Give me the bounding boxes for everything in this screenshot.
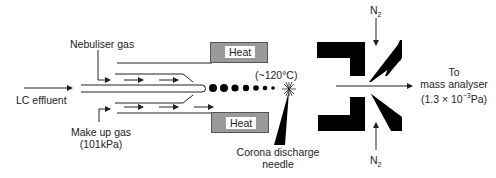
n2-bottom-label: N2 (370, 154, 382, 171)
n2-bottom-sub: 2 (378, 161, 382, 168)
pressure-prefix: (1.3 × 10 (421, 93, 463, 105)
heater-bottom: Heat (211, 112, 269, 133)
temperature-label: (~120°C) (255, 69, 297, 81)
nebuliser-gas-label: Nebuliser gas (70, 38, 134, 50)
heater-top-label: Heat (225, 46, 255, 58)
corona-needle (274, 91, 289, 145)
corona-line1: Corona discharge (232, 146, 324, 158)
pressure-suffix: Pa) (471, 93, 487, 105)
outer-tube (117, 63, 212, 113)
mass-analyser-text: mass analyser (414, 78, 494, 90)
heater-bottom-label: Heat (226, 117, 256, 129)
analyser-pressure: (1.3 × 10−3Pa) (414, 90, 494, 105)
to-mass-analyser-label: To mass analyser (1.3 × 10−3Pa) (414, 66, 494, 105)
make-up-gas-lead (99, 109, 110, 122)
n2-top-text: N (370, 4, 378, 16)
n2-bottom-text: N (370, 154, 378, 166)
corona-spark-icon (282, 82, 296, 96)
pressure-exponent: −3 (463, 92, 471, 99)
nebuliser-gas-lead (98, 50, 110, 80)
corona-line2: needle (232, 158, 324, 170)
to-text: To (414, 66, 494, 78)
make-up-gas-pressure: (101kPa) (70, 138, 132, 150)
lc-effluent-label: LC effluent (16, 94, 67, 106)
droplets (209, 84, 275, 92)
corona-discharge-label: Corona discharge needle (232, 146, 324, 170)
capillary (81, 85, 206, 92)
make-up-gas-text: Make up gas (70, 126, 132, 138)
make-up-gas-label: Make up gas (101kPa) (70, 126, 132, 150)
nebuliser-tube (115, 74, 193, 103)
n2-top-label: N2 (370, 4, 382, 21)
heater-top: Heat (210, 42, 268, 63)
n2-top-sub: 2 (378, 11, 382, 18)
